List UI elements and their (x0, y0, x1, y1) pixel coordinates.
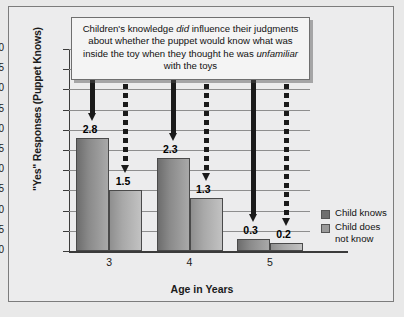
x-axis-title: Age in Years (9, 283, 395, 295)
y-axis-tick (63, 130, 69, 131)
y-axis-tick-label: 3.0 (0, 123, 4, 134)
y-axis-tick-label: 1.5 (0, 183, 4, 194)
legend-swatch-icon (321, 224, 330, 233)
chart-figure: "Yes" Responses (Puppet Knows) Age in Ye… (8, 6, 394, 302)
legend-label: Child does not know (335, 221, 380, 246)
arrow-head-icon (169, 133, 177, 141)
y-axis-tick (63, 211, 69, 212)
arrow-head-icon (121, 165, 129, 173)
y-axis-tick (63, 251, 69, 252)
legend-item-child-does-not-know: Child does not know (321, 221, 387, 246)
caption-line-4: when they thought he was unfamiliar with (142, 48, 298, 71)
gridline (69, 110, 310, 111)
legend: Child knows Child does not know (321, 207, 387, 247)
y-axis-tick-label: 3.5 (0, 103, 4, 114)
y-axis-tick-label: 4.5 (0, 62, 4, 73)
bar (190, 198, 223, 251)
caption-line-1: Children's knowledge did influence (83, 23, 230, 34)
caption-box: Children's knowledge did influence their… (71, 17, 310, 80)
x-axis-tick-label: 4 (170, 256, 210, 268)
gridline (69, 130, 310, 131)
x-axis-line (69, 251, 348, 253)
y-axis-tick-label: 2.0 (0, 163, 4, 174)
arrow-head-icon (88, 113, 96, 121)
y-axis-tick (63, 89, 69, 90)
y-axis-tick (63, 231, 69, 232)
arrow-head-icon (249, 214, 257, 222)
bar-value-label: 2.3 (163, 143, 178, 155)
bar (109, 190, 142, 251)
bar-value-label: 1.3 (196, 183, 211, 195)
y-axis-tick-label: 5.0 (0, 42, 4, 53)
y-axis-tick (63, 49, 69, 50)
y-axis-tick-label: 1.0 (0, 204, 4, 215)
bar (76, 138, 109, 251)
legend-label: Child knows (335, 207, 387, 220)
y-axis-title: "Yes" Responses (Puppet Knows) (31, 0, 43, 219)
y-axis-tick (63, 150, 69, 151)
legend-item-child-knows: Child knows (321, 207, 387, 220)
bar (237, 239, 270, 251)
y-axis-tick (63, 170, 69, 171)
y-axis-tick-label: 0 (0, 244, 4, 255)
y-axis-tick-label: 4.0 (0, 82, 4, 93)
bar-value-label: 0.3 (243, 224, 258, 236)
y-axis-tick-label: 0.5 (0, 224, 4, 235)
y-axis-tick-label: 2.5 (0, 143, 4, 154)
y-axis-tick (63, 190, 69, 191)
bar-value-label: 0.2 (276, 228, 291, 240)
y-axis-tick (63, 69, 69, 70)
y-axis-tick (63, 110, 69, 111)
arrow-head-icon (282, 218, 290, 226)
bar-value-label: 2.8 (83, 123, 98, 135)
bar (157, 158, 190, 251)
x-axis-tick-label: 5 (250, 256, 290, 268)
bar (270, 243, 303, 251)
x-axis-tick-label: 3 (89, 256, 129, 268)
arrow-head-icon (202, 173, 210, 181)
gridline (69, 89, 310, 90)
bar-value-label: 1.5 (116, 175, 131, 187)
caption-line-5: the toys (184, 60, 218, 71)
legend-swatch-icon (321, 210, 330, 219)
